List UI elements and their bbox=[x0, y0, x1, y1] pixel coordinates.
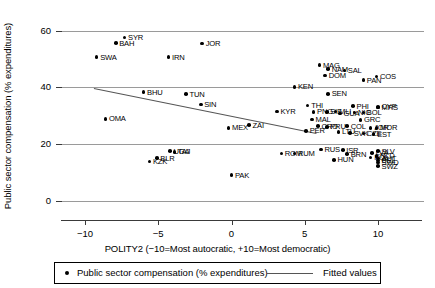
data-point bbox=[184, 92, 188, 96]
data-point-label: PAK bbox=[235, 171, 249, 180]
legend-label-fit: Fitted values bbox=[323, 267, 377, 278]
data-point bbox=[280, 152, 284, 156]
x-tick-label: 10 bbox=[360, 228, 396, 239]
gridline-y bbox=[61, 31, 424, 32]
data-point-label: RUS bbox=[324, 145, 339, 154]
x-tickmark bbox=[378, 220, 379, 225]
data-point-label: COS bbox=[380, 72, 396, 81]
data-point-label: BAH bbox=[119, 39, 134, 48]
y-axis-title: Public sector compensation (% expenditur… bbox=[2, 0, 14, 232]
y-tick-label: 0 bbox=[27, 195, 51, 206]
data-point bbox=[319, 148, 323, 152]
data-point bbox=[227, 126, 231, 130]
data-point bbox=[310, 118, 314, 122]
x-tick-label: 0 bbox=[214, 228, 250, 239]
data-point bbox=[142, 90, 146, 94]
data-point-label: PER bbox=[310, 126, 325, 135]
data-point bbox=[362, 78, 366, 82]
data-point bbox=[369, 156, 373, 160]
data-point-label: OMA bbox=[109, 114, 126, 123]
data-point-label: TUN bbox=[190, 90, 205, 99]
data-point bbox=[304, 129, 308, 133]
data-point bbox=[114, 41, 118, 45]
data-point bbox=[337, 130, 341, 134]
data-point-label: BHU bbox=[147, 88, 162, 97]
data-point-label: SWZ bbox=[382, 162, 398, 171]
y-tick-label: 60 bbox=[27, 25, 51, 36]
y-tickmark bbox=[56, 87, 62, 88]
legend-label-points: Public sector compensation (% expenditur… bbox=[77, 267, 268, 278]
x-tickmark bbox=[232, 220, 233, 225]
data-point bbox=[348, 131, 352, 135]
data-point-label: KYR bbox=[280, 107, 295, 116]
gridline-y bbox=[61, 87, 424, 88]
data-point-label: HUN bbox=[338, 155, 354, 164]
data-point bbox=[318, 63, 322, 67]
data-point bbox=[167, 55, 171, 59]
data-point-label: KZK bbox=[153, 157, 167, 166]
scatter-chart: Public sector compensation (% expenditur… bbox=[0, 0, 435, 288]
data-point-label: DOM bbox=[329, 71, 346, 80]
y-tick-label: 20 bbox=[27, 138, 51, 149]
x-axis-title: POLITY2 (−10=Most autocratic, +10=Most d… bbox=[0, 243, 435, 254]
data-point bbox=[326, 92, 330, 96]
data-point bbox=[275, 110, 279, 114]
data-point bbox=[293, 85, 297, 89]
data-point-label: RUM bbox=[298, 149, 315, 158]
data-point bbox=[95, 55, 99, 59]
data-point-label: MRS bbox=[382, 103, 398, 112]
x-tickmark bbox=[158, 220, 159, 225]
data-point bbox=[312, 110, 316, 114]
data-point bbox=[323, 74, 327, 78]
legend-marker-dot bbox=[65, 271, 69, 275]
data-point bbox=[200, 42, 204, 46]
x-tick-label: −5 bbox=[140, 228, 176, 239]
data-point-label: SEN bbox=[332, 89, 347, 98]
data-point-label: ZAI bbox=[253, 121, 264, 130]
data-point bbox=[104, 117, 108, 121]
data-point bbox=[325, 110, 329, 114]
chart-legend: Public sector compensation (% expenditur… bbox=[54, 262, 381, 284]
data-point bbox=[148, 160, 152, 164]
data-point-label: SWA bbox=[100, 53, 116, 62]
y-tickmark bbox=[56, 144, 62, 145]
data-point-label: KEN bbox=[298, 82, 313, 91]
data-point-label: SIN bbox=[204, 100, 216, 109]
x-tick-label: 5 bbox=[287, 228, 323, 239]
data-point-label: SAL bbox=[348, 66, 362, 75]
data-point bbox=[168, 149, 172, 153]
x-tick-label: −10 bbox=[67, 228, 103, 239]
data-point bbox=[376, 164, 380, 168]
y-tickmark bbox=[56, 201, 62, 202]
data-point bbox=[230, 173, 234, 177]
data-point-label: PAN bbox=[367, 76, 381, 85]
gridline-y bbox=[61, 144, 424, 145]
y-tickmark bbox=[56, 31, 62, 32]
data-point-label: MEX bbox=[232, 123, 248, 132]
data-point-label: IRN bbox=[172, 53, 184, 62]
data-point-label: JOR bbox=[206, 39, 221, 48]
data-point-label: EST bbox=[377, 130, 391, 139]
legend-marker-line bbox=[267, 273, 313, 274]
data-point bbox=[341, 148, 345, 152]
data-point-label: TAJ bbox=[178, 147, 190, 156]
data-point bbox=[199, 103, 203, 107]
y-tick-label: 40 bbox=[27, 81, 51, 92]
data-point-label: GUA bbox=[343, 109, 359, 118]
data-point bbox=[332, 158, 336, 162]
data-point bbox=[306, 104, 310, 108]
x-tickmark bbox=[305, 220, 306, 225]
data-point bbox=[351, 104, 355, 108]
x-axis-line bbox=[61, 220, 422, 221]
data-point bbox=[325, 125, 329, 129]
gridline-y bbox=[61, 201, 424, 202]
x-tickmark bbox=[85, 220, 86, 225]
